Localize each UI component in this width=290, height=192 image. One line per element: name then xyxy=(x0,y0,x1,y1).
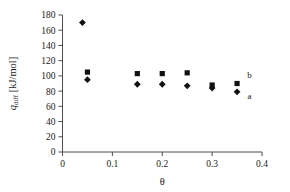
data-point-diamond-a xyxy=(159,81,166,88)
y-tick-label: 140 xyxy=(41,41,56,51)
y-axis-tick-labels: 020406080100120140160180 xyxy=(41,10,56,157)
y-tick-label: 160 xyxy=(41,26,56,36)
x-tick-label: 0 xyxy=(60,159,65,169)
data-markers xyxy=(79,19,240,95)
data-point-diamond-a xyxy=(234,88,241,95)
x-tick-label: 0.3 xyxy=(206,159,218,169)
y-tick-label: 120 xyxy=(41,56,56,66)
x-tick-label: 0.1 xyxy=(106,159,118,169)
series-label-b: b xyxy=(247,70,252,80)
y-tick-label: 180 xyxy=(41,10,56,20)
x-tick-label: 0.2 xyxy=(156,159,168,169)
data-point-square-b xyxy=(85,69,90,74)
y-tick-label: 20 xyxy=(46,132,56,142)
data-point-diamond-a xyxy=(84,76,91,83)
y-tick-label: 0 xyxy=(51,147,56,157)
series-label-a: a xyxy=(248,91,252,101)
y-axis-title-text: qdiff [kJ/mol] xyxy=(7,57,20,110)
data-point-diamond-a xyxy=(184,82,191,89)
data-point-square-b xyxy=(185,70,190,75)
chart-figure: 020406080100120140160180 00.10.20.30.4 b… xyxy=(0,0,290,192)
data-point-square-b xyxy=(234,81,239,86)
y-axis-title-units: [kJ/mol] xyxy=(7,57,18,95)
x-axis-title: θ xyxy=(160,176,165,187)
x-axis-tick-labels: 00.10.20.30.4 xyxy=(60,159,268,169)
x-axis-ticks xyxy=(63,152,263,156)
y-axis-ticks xyxy=(59,15,63,152)
data-point-diamond-a xyxy=(134,81,141,88)
y-axis-title: qdiff [kJ/mol] xyxy=(7,57,20,110)
data-point-square-b xyxy=(135,71,140,76)
scatter-plot: 020406080100120140160180 00.10.20.30.4 b… xyxy=(0,0,290,192)
y-tick-label: 60 xyxy=(46,102,56,112)
series-annotations: ba xyxy=(247,70,252,101)
y-tick-label: 80 xyxy=(46,87,56,97)
data-point-diamond-a xyxy=(79,19,86,26)
y-tick-label: 100 xyxy=(41,71,56,81)
y-tick-label: 40 xyxy=(46,117,56,127)
data-point-square-b xyxy=(160,71,165,76)
x-tick-label: 0.4 xyxy=(256,159,268,169)
